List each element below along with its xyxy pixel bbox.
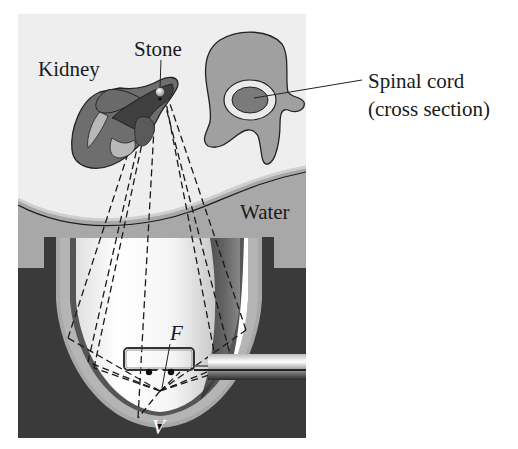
spinal-cord-label-line2: (cross section) [368, 97, 490, 121]
stone-label: Stone [134, 37, 182, 61]
lithotripsy-diagram: Kidney Stone Spinal cord (cross section)… [0, 0, 518, 449]
vertex-label: V [152, 415, 167, 439]
water-label: Water [240, 200, 290, 224]
spinal-cord-label-line1: Spinal cord [368, 69, 465, 93]
kidney-label: Kidney [38, 57, 100, 81]
electrode-probe [194, 354, 306, 380]
focus-label: F [169, 321, 183, 345]
